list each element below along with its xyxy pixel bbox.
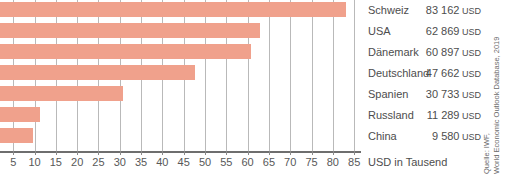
category-label: Deutschland [368,67,429,79]
bar [0,86,123,101]
x-tick-mark [141,151,142,155]
x-tick-mark [269,151,270,155]
x-tick-label: 70 [284,156,296,168]
legend-row: Dänemark60 897 USD [365,44,481,59]
value-label: 11 289 USD [427,109,481,121]
bar [0,44,251,59]
x-tick-label: 25 [92,156,104,168]
gridline [354,0,355,152]
value-unit: USD [459,90,481,100]
value-unit: USD [459,111,481,121]
x-tick-label: 75 [305,156,317,168]
x-tick-mark [312,151,313,155]
x-axis-label: USD in Tausend [368,156,447,168]
value-label: 30 733 USD [426,88,481,100]
value-label: 83 162 USD [426,4,481,16]
value-unit: USD [459,69,481,79]
x-tick-mark [354,151,355,155]
legend-row: USA62 869 USD [365,23,481,38]
x-tick-mark [98,151,99,155]
x-tick-label: 10 [28,156,40,168]
value-unit: USD [459,48,481,58]
value-number: 62 869 [426,25,460,37]
source-note: Quelle: IWF, World Economic Outlook Data… [482,0,510,177]
x-tick-label: 50 [199,156,211,168]
bar [0,23,260,38]
x-tick-label: 15 [50,156,62,168]
value-unit: USD [459,6,481,16]
x-tick-label: 30 [114,156,126,168]
legend-row: Deutschland47 662 USD [365,65,481,80]
bar [0,2,346,17]
x-tick-label: 85 [348,156,360,168]
x-axis: 510152025303540455055606570758085 [0,151,361,177]
category-label: Dänemark [368,46,419,58]
x-tick-mark [184,151,185,155]
x-tick-label: 35 [135,156,147,168]
gridline [269,0,270,152]
x-tick-label: 60 [242,156,254,168]
x-tick-label: 45 [178,156,190,168]
category-label: Russland [368,109,414,121]
value-number: 47 662 [426,67,460,79]
gridline [290,0,291,152]
value-unit: USD [459,27,481,37]
legend-row: Schweiz83 162 USD [365,2,481,17]
bar [0,65,195,80]
value-number: 60 897 [426,46,460,58]
value-number: 11 289 [427,109,460,121]
x-tick-mark [120,151,121,155]
value-unit: USD [459,132,481,142]
x-tick-label: 80 [327,156,339,168]
x-tick-mark [290,151,291,155]
category-label: Spanien [368,88,408,100]
x-tick-label: 40 [156,156,168,168]
legend-row: Russland11 289 USD [365,107,481,122]
x-tick-label: 65 [263,156,275,168]
gridline [333,0,334,152]
x-tick-mark [226,151,227,155]
value-number: 30 733 [426,88,460,100]
x-tick-mark [333,151,334,155]
bar [0,128,33,143]
category-label: China [368,130,397,142]
x-tick-mark [56,151,57,155]
value-label: 62 869 USD [426,25,481,37]
source-note-line-2: World Economic Outlook Database, 2019 [492,0,502,174]
x-tick-mark [162,151,163,155]
x-tick-label: 5 [10,156,16,168]
value-number: 83 162 [426,4,460,16]
value-label: 60 897 USD [426,46,481,58]
value-label: 9 580 USD [432,130,481,142]
chart-legend-table: Schweiz83 162 USDUSA62 869 USDDänemark60… [365,0,481,152]
gridline [312,0,313,152]
x-tick-label: 55 [220,156,232,168]
x-tick-mark [248,151,249,155]
x-tick-mark [13,151,14,155]
x-tick-label: 20 [71,156,83,168]
legend-row: Spanien30 733 USD [365,86,481,101]
category-label: Schweiz [368,4,409,16]
legend-row: China9 580 USD [365,128,481,143]
value-number: 9 580 [432,130,460,142]
x-tick-mark [205,151,206,155]
value-label: 47 662 USD [426,67,481,79]
source-note-line-1: Quelle: IWF, [482,0,492,174]
x-tick-mark [35,151,36,155]
x-tick-mark [77,151,78,155]
bar [0,107,40,122]
category-label: USA [368,25,391,37]
chart-plot-area [0,0,361,152]
